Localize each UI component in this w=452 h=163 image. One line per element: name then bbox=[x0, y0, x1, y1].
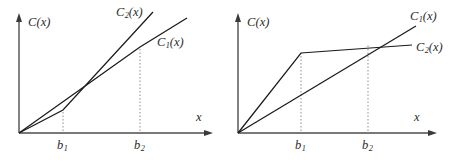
y-axis-arrow-icon bbox=[16, 13, 22, 22]
curve-c2 bbox=[238, 45, 412, 133]
tick-label-b1-main: b bbox=[295, 138, 301, 152]
curve-label-c1-main: C bbox=[410, 9, 418, 23]
tick-label-b2: b2 bbox=[362, 139, 373, 152]
x-axis-arrow-icon bbox=[204, 130, 213, 136]
curve-label-c2-arg: (x) bbox=[429, 40, 443, 54]
tick-label-b2-sub: 2 bbox=[369, 144, 373, 153]
curve-label-c2-arg: (x) bbox=[129, 5, 143, 19]
curve-label-c2: C2(x) bbox=[416, 41, 443, 54]
tick-label-b1-sub: 1 bbox=[302, 144, 306, 153]
figure-two-cost-function-panels: C(x) x C2(x) C1(x) b1 b2 C(x) x C1(x) C2… bbox=[0, 0, 452, 163]
curve-label-c2-sub: 2 bbox=[125, 11, 129, 20]
y-axis-label: C(x) bbox=[247, 16, 270, 29]
y-axis-label: C(x) bbox=[28, 16, 51, 29]
tick-label-b1: b1 bbox=[57, 139, 68, 152]
curve-c2 bbox=[19, 12, 153, 133]
curve-label-c2-sub: 2 bbox=[425, 46, 429, 55]
curve-label-c1-main: C bbox=[157, 35, 165, 49]
curve-label-c2-main: C bbox=[416, 40, 424, 54]
x-axis-label: x bbox=[196, 111, 202, 124]
x-axis-label: x bbox=[414, 111, 420, 124]
tick-label-b1: b1 bbox=[295, 139, 306, 152]
tick-label-b2-main: b bbox=[362, 138, 368, 152]
curve-label-c1-sub: 1 bbox=[419, 15, 423, 24]
x-axis-arrow-icon bbox=[428, 130, 437, 136]
curve-c1 bbox=[238, 26, 416, 133]
curve-label-c1-arg: (x) bbox=[423, 9, 437, 23]
curve-label-c1-arg: (x) bbox=[170, 35, 184, 49]
tick-label-b1-main: b bbox=[57, 138, 63, 152]
panel-left: C(x) x C2(x) C1(x) b1 b2 bbox=[0, 0, 226, 163]
tick-label-b1-sub: 1 bbox=[64, 144, 68, 153]
y-axis-arrow-icon bbox=[235, 13, 241, 22]
curve-label-c1-sub: 1 bbox=[166, 41, 170, 50]
tick-label-b2: b2 bbox=[134, 139, 145, 152]
curve-label-c2-main: C bbox=[116, 5, 124, 19]
panel-right: C(x) x C1(x) C2(x) b1 b2 bbox=[226, 0, 452, 163]
curve-label-c2: C2(x) bbox=[116, 6, 143, 19]
curve-label-c1: C1(x) bbox=[410, 10, 437, 23]
curve-label-c1: C1(x) bbox=[157, 36, 184, 49]
tick-label-b2-sub: 2 bbox=[141, 144, 145, 153]
tick-label-b2-main: b bbox=[134, 138, 140, 152]
